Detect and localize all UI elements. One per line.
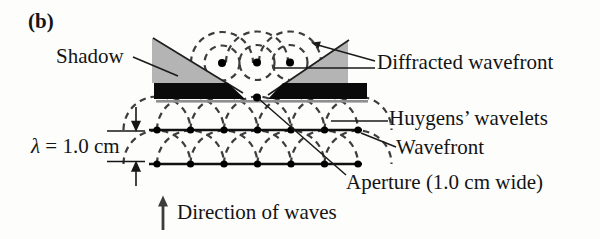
diffraction-figure: (b) Shadow Diffracted wavefront Huygens’… — [0, 0, 600, 239]
wavelength-value: = 1.0 cm — [40, 134, 120, 158]
wavefront-label: Wavefront — [396, 137, 484, 158]
aperture-label: Aperture (1.0 cm wide) — [346, 172, 543, 193]
panel-label: (b) — [28, 11, 54, 32]
wavefront-lines — [149, 130, 362, 164]
diffracted-wavefront-label: Diffracted wavefront — [377, 52, 553, 73]
wavelength-label: λ = 1.0 cm — [31, 136, 120, 157]
direction-arrow — [158, 196, 168, 231]
measure-arrow-bottom-head — [132, 163, 140, 172]
lambda-symbol: λ — [31, 134, 40, 158]
direction-of-waves-label: Direction of waves — [177, 202, 337, 223]
barrier-right — [268, 83, 367, 99]
measure-arrow-top-head — [132, 122, 140, 131]
wavefront-leader — [361, 133, 396, 147]
shadow-label: Shadow — [56, 46, 124, 67]
huygens-wavelets-label: Huygens’ wavelets — [389, 108, 548, 129]
